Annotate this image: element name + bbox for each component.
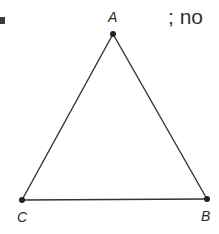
vertex-b-point [204,196,210,202]
cropped-text-fragment: ; no [168,6,203,27]
vertex-c-point [19,197,25,203]
vertex-c-label: C [17,210,27,224]
vertex-b-label: B [201,209,210,223]
vertex-a-label: A [108,10,117,24]
side-ab [113,34,207,199]
cropped-bullet-mark [0,17,5,24]
triangle-diagram: A C B ; no [0,0,219,234]
vertex-a-point [110,31,116,37]
side-ca [22,34,113,200]
triangle-figure [0,0,219,234]
side-bc [22,199,207,200]
